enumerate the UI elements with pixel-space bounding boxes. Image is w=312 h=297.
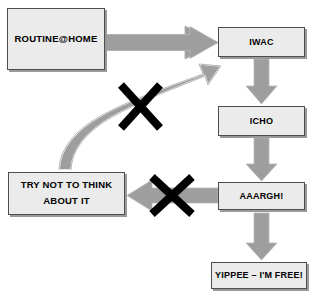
arrow-icho-to-aaargh [246, 138, 277, 181]
node-label: ROUTINE@HOME [15, 33, 98, 46]
node-label: IWAC [249, 36, 273, 48]
node-iwac[interactable]: IWAC [218, 27, 305, 57]
node-label-line-2: ABOUT IT [43, 195, 89, 208]
node-icho[interactable]: ICHO [218, 106, 305, 136]
flowchart-diagram: ROUTINE@HOME IWAC ICHO AAARGH! YIPPEE – … [0, 0, 312, 297]
node-routine-at-home[interactable]: ROUTINE@HOME [7, 8, 105, 70]
node-label: ICHO [250, 115, 273, 127]
node-yippee-im-free[interactable]: YIPPEE – I'M FREE! [211, 262, 307, 289]
arrow-aaargh-to-yippee [246, 213, 277, 260]
node-label: AAARGH! [240, 190, 284, 202]
arrow-trynot-to-iwac [59, 64, 221, 170]
arrow-iwac-to-icho [246, 59, 277, 104]
node-try-not-to-think-about-it[interactable]: TRY NOT TO THINK ABOUT IT [8, 172, 125, 215]
node-aaargh[interactable]: AAARGH! [218, 182, 305, 210]
node-label-line-1: TRY NOT TO THINK [21, 179, 113, 192]
node-label: YIPPEE – I'M FREE! [215, 269, 303, 281]
